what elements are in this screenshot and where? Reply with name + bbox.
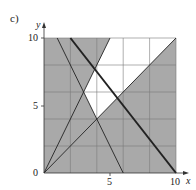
y-tick-5: 5	[33, 101, 38, 111]
y-axis-label: y	[36, 20, 40, 30]
x-tick-5: 5	[107, 177, 112, 187]
origin-label: 0	[33, 168, 38, 178]
y-tick-10: 10	[28, 33, 38, 43]
x-axis-label: x	[186, 176, 190, 186]
graph	[0, 0, 196, 190]
x-tick-10: 10	[170, 177, 180, 187]
y-axis-arrow-icon	[42, 22, 46, 28]
